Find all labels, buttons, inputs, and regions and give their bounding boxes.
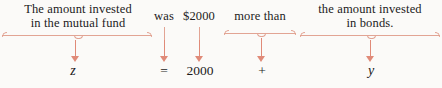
arrow-more-than xyxy=(257,38,266,62)
brace-center-notch-right xyxy=(370,35,376,39)
arrow-mutual-fund xyxy=(71,40,80,62)
brace-left-cap xyxy=(224,30,229,35)
phrase-was-line1: was xyxy=(148,10,180,24)
arrow-dollar-amount xyxy=(195,40,204,62)
symbol-y: y xyxy=(360,64,382,78)
brace-center-notch-right xyxy=(260,33,266,37)
arrow-was xyxy=(160,40,169,62)
phrase-mutual-fund-line2: in the mutual fund xyxy=(2,17,154,31)
arrow-head xyxy=(71,56,79,62)
phrase-mutual-fund-line1: The amount invested xyxy=(2,3,154,17)
symbol-z: z xyxy=(62,64,84,78)
phrase-was: was xyxy=(148,10,180,24)
phrase-dollar-amount: $2000 xyxy=(180,10,218,24)
arrow-shaft xyxy=(164,40,165,57)
brace-right-cap xyxy=(291,30,296,35)
brace-right-cap xyxy=(147,32,152,37)
symbol-plus: + xyxy=(251,64,273,78)
phrase-bonds: the amount invested in bonds. xyxy=(300,3,440,30)
phrase-bonds-line1: the amount invested xyxy=(300,3,440,17)
phrase-more-than: more than xyxy=(226,10,294,24)
equation-translation-diagram: The amount invested in the mutual fund z… xyxy=(0,0,442,88)
symbol-2000: 2000 xyxy=(181,64,219,78)
arrow-shaft xyxy=(370,40,371,57)
arrow-head xyxy=(160,56,168,62)
stem-was xyxy=(164,27,165,41)
arrow-shaft xyxy=(261,38,262,57)
arrow-head xyxy=(257,56,265,62)
brace-left-cap xyxy=(300,32,305,37)
phrase-bonds-line2: in bonds. xyxy=(300,17,440,31)
arrow-head xyxy=(195,56,203,62)
brace-center-notch-right xyxy=(77,35,83,39)
arrow-bonds xyxy=(366,40,375,62)
brace-left-cap xyxy=(2,32,7,37)
brace-right-cap xyxy=(435,32,440,37)
arrow-shaft xyxy=(199,40,200,57)
phrase-more-than-line1: more than xyxy=(226,10,294,24)
arrow-head xyxy=(366,56,374,62)
phrase-mutual-fund: The amount invested in the mutual fund xyxy=(2,3,154,30)
stem-dollar-amount xyxy=(199,27,200,41)
symbol-equals: = xyxy=(153,64,175,78)
arrow-shaft xyxy=(75,40,76,57)
phrase-dollar-amount-line1: $2000 xyxy=(180,10,218,24)
